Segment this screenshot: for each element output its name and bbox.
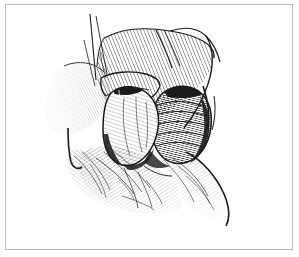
figure-root: Black and white pen-and-ink surgical ill… — [0, 0, 299, 257]
surgical-line-art-illustration: Black and white pen-and-ink surgical ill… — [0, 0, 299, 257]
